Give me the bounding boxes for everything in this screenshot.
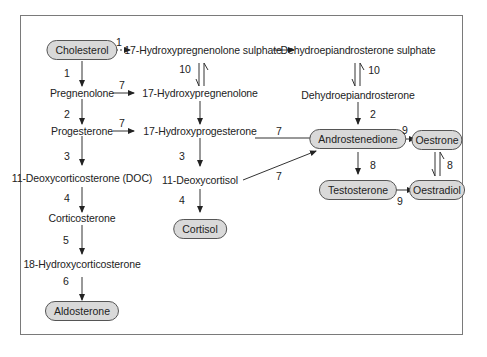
label-oestrone-oestradiol: 8 [447,159,453,171]
label-preg-to-prog: 2 [64,108,70,120]
node-oestradiol: Oestradiol [409,180,465,200]
node-17-hydroxyprogesterone: 17-Hydroxyprogesterone [143,125,256,137]
node-11-deoxycortisol: 11-Deoxycortisol [162,174,238,186]
label-prog-to-doc: 3 [64,150,70,162]
label-dhea-to-andro: 2 [370,108,376,120]
node-doc: 11-Deoxycorticosterone (DOC) [12,172,153,184]
node-dhea-sulphate: Dehydroepiandrosterone sulphate [280,44,435,56]
label-18oh-to-aldo: 6 [63,275,69,287]
label-chol-to-preg: 1 [64,67,70,79]
label-chol-to-hps: 1 [116,36,122,48]
label-dheas-dhea: 10 [368,64,380,76]
node-pregnenolone: Pregnenolone [50,87,114,99]
node-corticosterone: Corticosterone [49,212,116,224]
node-cholesterol: Cholesterol [46,40,117,60]
label-testo-to-oestradiol: 9 [397,195,403,207]
label-deoxy-to-andro: 7 [276,170,282,182]
node-oestrone: Oestrone [411,130,462,150]
label-cort-to-18oh: 5 [63,234,69,246]
label-hprog-to-deoxy: 3 [179,150,185,162]
label-andro-to-testo: 8 [370,159,376,171]
node-aldosterone: Aldosterone [45,301,119,321]
label-doc-to-cort: 4 [64,192,70,204]
label-prog-to-hprog: 7 [119,117,125,129]
node-17-hydroxypregnenolone-sulphate: 17-Hydroxypregnenolone sulphate [124,44,281,56]
node-dhea: Dehydroepiandrosterone [301,89,414,101]
label-hprog-to-andro: 7 [276,125,282,137]
node-17-hydroxypregnenolone: 17-Hydroxypregnenolone [142,87,258,99]
label-andro-to-oestrone: 9 [402,124,408,136]
node-progesterone: Progesterone [51,125,113,137]
label-preg-to-hp: 7 [119,79,125,91]
node-cortisol: Cortisol [173,219,227,239]
node-testosterone: Testosterone [319,180,397,200]
node-18-hydroxycorticosterone: 18-Hydroxycorticosterone [23,258,140,270]
label-deoxy-to-cortisol: 4 [179,194,185,206]
label-hps-hp: 10 [179,63,191,75]
node-androstenedione: Androstenedione [309,129,406,149]
